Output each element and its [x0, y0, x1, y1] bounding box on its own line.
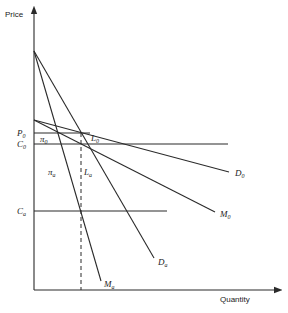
- ca-label: Ca: [17, 206, 26, 217]
- c0-label: C0: [17, 139, 26, 150]
- y-axis-label: Price: [5, 10, 24, 19]
- d0-label: D0: [234, 168, 245, 179]
- l0-label: L0: [90, 133, 99, 144]
- da-demand-curve: [34, 51, 154, 258]
- p0-label: P0: [16, 128, 26, 139]
- pi0-label: π0: [40, 134, 48, 145]
- ma-marginal-revenue-curve: [34, 51, 101, 281]
- m0-label: M0: [219, 209, 231, 220]
- pia-label: πa: [48, 167, 56, 178]
- la-label: La: [83, 167, 92, 178]
- d0-demand-curve: [34, 120, 229, 172]
- m0-marginal-revenue-curve: [34, 120, 215, 212]
- da-label: Da: [157, 257, 168, 268]
- x-axis-label: Quantity: [220, 295, 250, 304]
- ma-label: Ma: [103, 279, 115, 290]
- monopoly-pricing-diagram: Price Quantity P0 C0 Ca D0 M0 Da Ma π0 π…: [0, 0, 288, 313]
